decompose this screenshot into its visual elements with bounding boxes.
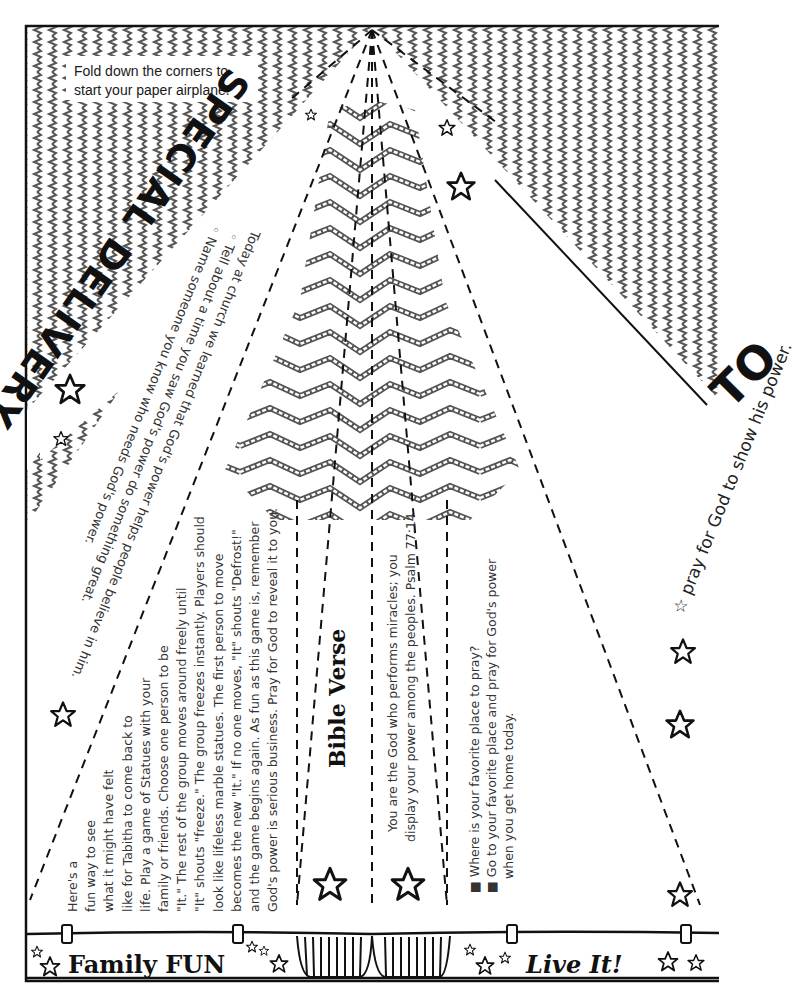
family-fun-line: life. Play a game of Statues with your <box>137 508 155 912</box>
family-fun-line: God's power is serious business. Pray fo… <box>264 508 282 912</box>
family-fun-text: Here's a fun way to see what it might ha… <box>64 508 282 912</box>
bible-verse-line-2: display your power among the peoples. Ps… <box>402 513 420 842</box>
live-it-list: ■ Where is your favorite place to pray? … <box>466 559 517 893</box>
bible-verse-heading: Bible Verse <box>324 629 350 768</box>
family-fun-heading: Family FUN <box>68 950 225 979</box>
family-fun-line: like for Tabitha to come back to <box>119 508 137 912</box>
bible-verse-text: You are the God who performs miracles; y… <box>384 513 420 842</box>
bible-verse-line-1: You are the God who performs miracles; y… <box>384 513 402 842</box>
family-fun-line: family or friends. Choose one person to … <box>155 508 173 912</box>
live-it-item-2: ■ Go to your favorite place and pray for… <box>483 559 500 893</box>
family-fun-line: what it might have felt <box>100 508 118 912</box>
family-fun-line: becomes the new "It." If no one moves, "… <box>228 508 246 912</box>
family-fun-line: fun way to see <box>82 508 100 912</box>
family-fun-line: and the game begins again. As fun as thi… <box>246 508 264 912</box>
live-it-heading: Live It! <box>526 950 622 979</box>
family-fun-line: "It" shouts "freeze." The group freezes … <box>191 508 209 912</box>
family-fun-line: "It." The rest of the group moves around… <box>173 508 191 912</box>
live-it-item-3: when you get home today. <box>500 559 517 893</box>
family-fun-line: look like lifeless marble statues. The f… <box>210 508 228 912</box>
family-fun-line: Here's a <box>64 508 82 912</box>
live-it-item-1: ■ Where is your favorite place to pray? <box>466 559 483 893</box>
